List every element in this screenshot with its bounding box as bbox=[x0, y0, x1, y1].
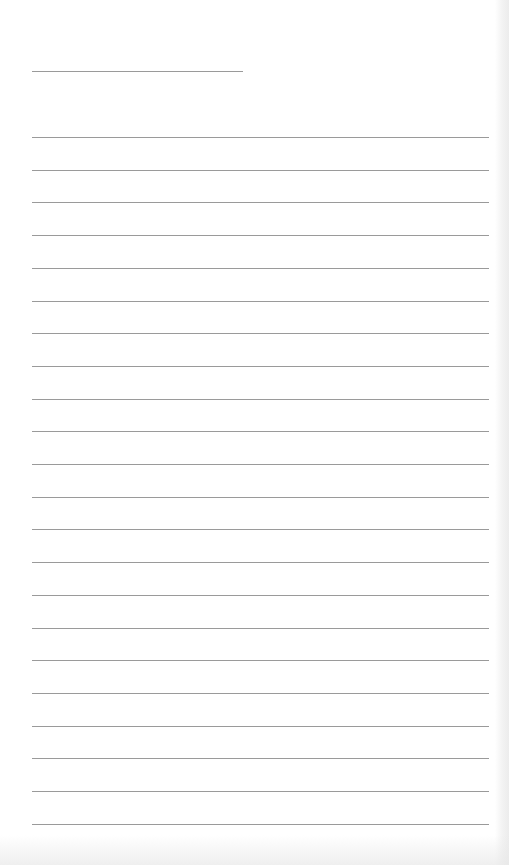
ruled-line bbox=[32, 824, 489, 825]
ruled-line bbox=[32, 628, 489, 629]
ruled-line bbox=[32, 137, 489, 138]
ruled-line bbox=[32, 431, 489, 432]
ruled-line bbox=[32, 791, 489, 792]
ruled-line bbox=[32, 399, 489, 400]
ruled-line bbox=[32, 758, 489, 759]
ruled-line bbox=[32, 366, 489, 367]
ruled-line bbox=[32, 693, 489, 694]
header-name-line bbox=[32, 71, 243, 72]
ruled-line bbox=[32, 562, 489, 563]
ruled-line bbox=[32, 301, 489, 302]
ruled-line bbox=[32, 529, 489, 530]
ruled-line bbox=[32, 464, 489, 465]
ruled-line bbox=[32, 333, 489, 334]
ruled-line bbox=[32, 202, 489, 203]
ruled-line bbox=[32, 235, 489, 236]
ruled-line bbox=[32, 595, 489, 596]
ruled-line bbox=[32, 497, 489, 498]
lined-paper-page bbox=[0, 0, 509, 865]
ruled-line bbox=[32, 660, 489, 661]
ruled-line bbox=[32, 268, 489, 269]
ruled-line bbox=[32, 726, 489, 727]
ruled-line bbox=[32, 170, 489, 171]
